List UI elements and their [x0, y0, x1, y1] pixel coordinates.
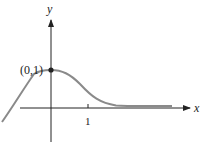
y-axis-label: y	[46, 2, 53, 16]
x-axis-label: x	[193, 101, 200, 115]
point-marker	[48, 67, 53, 72]
function-graph: y x (0,1) 1	[0, 0, 209, 152]
x-tick-label: 1	[85, 115, 91, 127]
point-label: (0,1)	[20, 63, 43, 77]
